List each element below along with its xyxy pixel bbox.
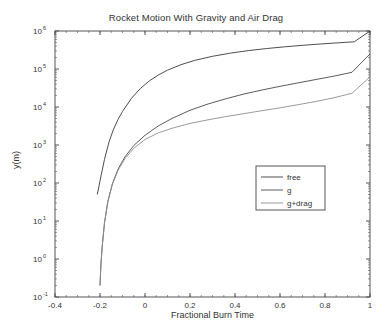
y-tick-label: 10	[33, 179, 42, 188]
x-tick-label: 0	[143, 301, 148, 310]
data-series-group	[97, 31, 370, 286]
x-tick-label: 0.8	[319, 301, 331, 310]
x-tick-label: 0.2	[184, 301, 196, 310]
y-tick-label: 10	[33, 141, 42, 150]
plot-canvas: 10-1100101102103104105106 -0.4-0.200.20.…	[0, 0, 392, 330]
x-tick-label: 1	[368, 301, 373, 310]
x-tick-label: -0.4	[48, 301, 62, 310]
legend-label-free[interactable]: free	[287, 173, 301, 182]
legend-label-g-plus-drag[interactable]: g+drag	[287, 199, 312, 208]
y-tick-label: 10	[33, 255, 42, 264]
x-tick-label: 0.6	[274, 301, 286, 310]
y-tick-exponent: 2	[43, 177, 46, 183]
x-axis-label: Fractional Burn Time	[55, 310, 370, 320]
y-tick-exponent: -1	[43, 291, 48, 297]
y-tick-exponent: 5	[43, 63, 46, 69]
chart-figure: Rocket Motion With Gravity and Air Drag …	[0, 0, 392, 330]
y-tick-label: 10	[33, 103, 42, 112]
y-tick-exponent: 3	[43, 139, 46, 145]
series-line-free	[97, 31, 370, 194]
y-tick-exponent: 6	[43, 25, 46, 31]
series-line-g-plus-drag	[100, 77, 370, 286]
axis-frame	[55, 31, 370, 297]
y-tick-label: 10	[33, 65, 42, 74]
y-tick-exponent: 4	[43, 101, 46, 107]
x-tick-label: 0.4	[229, 301, 241, 310]
y-tick-label: 10	[33, 293, 42, 302]
y-axis-tick-labels: 10-1100101102103104105106	[33, 25, 48, 302]
plot-border	[55, 31, 370, 297]
legend[interactable]: freegg+drag	[256, 166, 325, 210]
y-tick-exponent: 1	[43, 215, 46, 221]
axis-ticks	[55, 31, 370, 297]
y-tick-exponent: 0	[43, 253, 46, 259]
legend-label-g[interactable]: g	[287, 186, 291, 195]
y-axis-label: y(m)	[11, 130, 21, 190]
y-tick-label: 10	[33, 27, 42, 36]
x-axis-tick-labels: -0.4-0.200.20.40.60.81	[48, 301, 373, 310]
y-tick-label: 10	[33, 217, 42, 226]
x-tick-label: -0.2	[93, 301, 107, 310]
